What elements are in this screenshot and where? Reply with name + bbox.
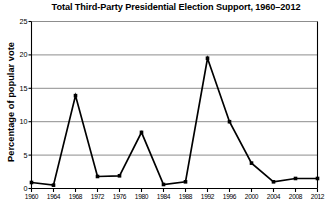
data-point-marker <box>96 175 100 179</box>
plot-area <box>0 0 325 206</box>
gridlines <box>32 22 318 156</box>
data-point-marker <box>162 183 166 187</box>
data-point-marker <box>250 161 254 165</box>
data-point-marker <box>30 181 34 185</box>
data-point-marker <box>294 177 298 181</box>
data-point-marker <box>74 94 78 98</box>
data-point-marker <box>228 120 232 124</box>
data-point-marker <box>118 174 122 178</box>
data-point-marker <box>52 183 56 187</box>
data-point-marker <box>184 180 188 184</box>
data-point-marker <box>316 177 320 181</box>
data-point-marker <box>206 56 210 60</box>
data-point-marker <box>272 180 276 184</box>
data-point-marker <box>140 131 144 135</box>
axis-frame <box>32 22 318 189</box>
chart-container: Total Third-Party Presidential Election … <box>0 0 325 206</box>
